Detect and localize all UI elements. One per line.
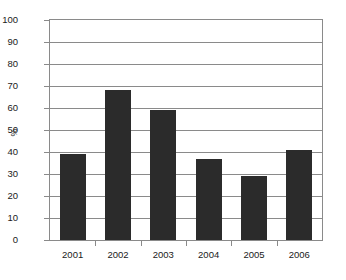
- y-tick-label: 100: [0, 15, 18, 25]
- y-tick-label: 40: [0, 147, 18, 157]
- y-tick-label: 30: [0, 169, 18, 179]
- bars-layer: [50, 20, 322, 240]
- y-tick-label: 20: [0, 191, 18, 201]
- bar-slot: [277, 20, 322, 240]
- x-tick-mark: [186, 241, 187, 246]
- bar-slot: [231, 20, 276, 240]
- y-tick-label: 70: [0, 81, 18, 91]
- x-tick-mark: [95, 241, 96, 246]
- y-tick-mark: [44, 108, 49, 109]
- x-tick-label: 2004: [186, 250, 232, 260]
- bar: [105, 90, 131, 240]
- x-tick-label: 2001: [50, 250, 96, 260]
- y-tick-label: 50: [0, 125, 18, 135]
- y-tick-label: 0: [0, 235, 18, 245]
- y-tick-mark: [44, 42, 49, 43]
- x-tick-mark: [231, 241, 232, 246]
- bar-chart-figure: % 0102030405060708090100 200120022003200…: [0, 0, 346, 280]
- y-tick-mark: [44, 20, 49, 21]
- y-tick-mark: [44, 174, 49, 175]
- x-tick-mark: [141, 241, 142, 246]
- y-tick-mark: [44, 196, 49, 197]
- y-tick-label: 80: [0, 59, 18, 69]
- bar-slot: [186, 20, 231, 240]
- bar-slot: [50, 20, 95, 240]
- y-tick-label: 60: [0, 103, 18, 113]
- bar-slot: [95, 20, 140, 240]
- x-tick-label: 2006: [276, 250, 322, 260]
- y-tick-label: 10: [0, 213, 18, 223]
- y-tick-mark: [44, 218, 49, 219]
- y-tick-label: 90: [0, 37, 18, 47]
- x-tick-label: 2003: [140, 250, 186, 260]
- bar: [286, 150, 312, 240]
- y-tick-mark: [44, 86, 49, 87]
- bar: [196, 159, 222, 240]
- x-tick-label: 2002: [95, 250, 141, 260]
- y-tick-mark: [44, 152, 49, 153]
- y-tick-mark: [44, 64, 49, 65]
- bar: [241, 176, 267, 240]
- x-tick-label: 2005: [231, 250, 277, 260]
- bar-slot: [141, 20, 186, 240]
- bar: [150, 110, 176, 240]
- x-tick-mark: [277, 241, 278, 246]
- bar: [60, 154, 86, 240]
- y-tick-mark: [44, 240, 49, 241]
- y-tick-mark: [44, 130, 49, 131]
